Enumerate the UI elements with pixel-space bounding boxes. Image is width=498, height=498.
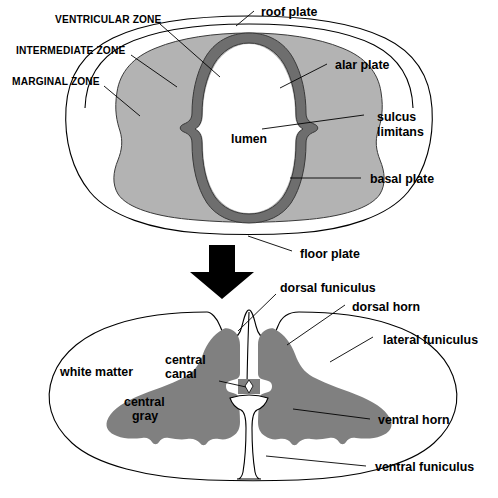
bottom-panel-group: dorsal funiculus dorsal horn lateral fun…: [49, 281, 478, 481]
sulcus-limitans-label-line2: limitans: [377, 125, 424, 139]
central-gray-label-line2: gray: [132, 409, 158, 423]
ventral-horn-label: ventral horn: [378, 413, 450, 427]
dorsal-horn-leader: [287, 305, 345, 345]
alar-plate-label: alar plate: [335, 58, 390, 72]
roof-plate-label: roof plate: [261, 5, 318, 19]
lateral-funiculus-leader: [330, 337, 373, 362]
white-matter-label: white matter: [59, 365, 133, 379]
dorsal-horn-label: dorsal horn: [352, 300, 420, 314]
floor-plate-label: floor plate: [300, 247, 360, 261]
central-gray-shape-right: [258, 328, 392, 445]
floor-plate-leader: [248, 236, 292, 251]
top-panel-group: lumen VENTRICULAR ZONE INTERMEDIATE ZONE…: [12, 5, 434, 261]
sulcus-limitans-label-line1: sulcus: [377, 110, 416, 124]
ventricular-zone-label: VENTRICULAR ZONE: [55, 14, 162, 25]
dorsal-funiculus-label: dorsal funiculus: [280, 281, 376, 295]
lumen-label: lumen: [231, 132, 267, 146]
dorsal-funiculus-leader: [238, 294, 276, 331]
central-canal-label-line1: central: [165, 353, 206, 367]
central-gray-label-line1: central: [124, 395, 165, 409]
central-gray-shape: [106, 328, 240, 445]
basal-plate-label: basal plate: [370, 172, 434, 186]
intermediate-zone-label: INTERMEDIATE ZONE: [16, 45, 125, 56]
ventral-funiculus-label: ventral funiculus: [375, 460, 474, 474]
figure-canvas: lumen VENTRICULAR ZONE INTERMEDIATE ZONE…: [0, 0, 498, 498]
spinal-cord-development-figure: lumen VENTRICULAR ZONE INTERMEDIATE ZONE…: [0, 0, 498, 498]
lateral-funiculus-label: lateral funiculus: [383, 333, 478, 347]
marginal-zone-label: MARGINAL ZONE: [12, 76, 100, 87]
transition-arrow-group: [190, 245, 254, 299]
central-canal-label-line2: canal: [165, 367, 197, 381]
down-arrow-icon: [190, 245, 254, 299]
ventral-funiculus-leader: [266, 456, 366, 466]
